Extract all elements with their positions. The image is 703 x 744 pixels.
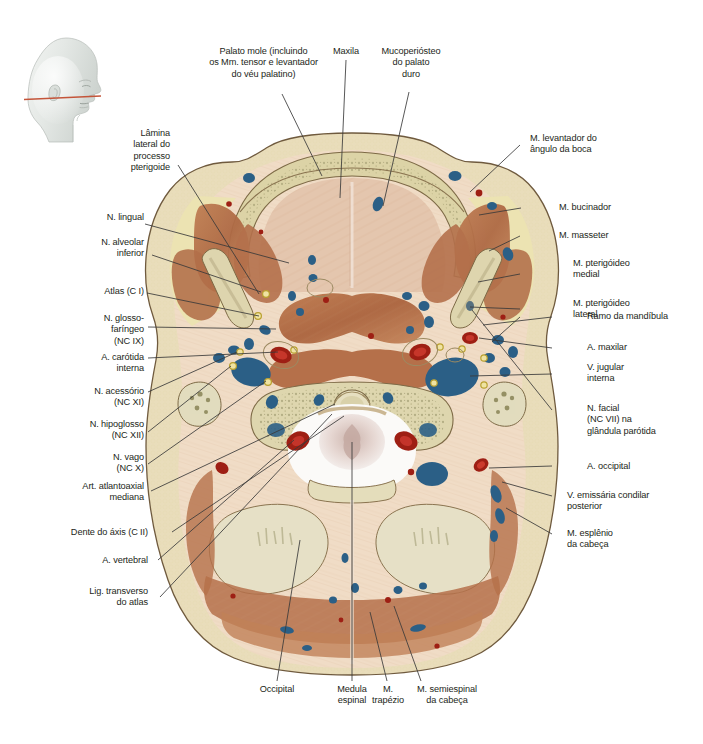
nerve-marker (255, 313, 262, 320)
label-m-trapezio: M. trapézio (366, 684, 410, 707)
label-m-bucinador: M. bucinador (559, 202, 689, 213)
emissary-vein (416, 462, 448, 486)
label-v-emissaria: V. emissária condilar posterior (567, 490, 703, 513)
nerve-marker (481, 355, 487, 361)
label-a-vertebral: A. vertebral (62, 555, 148, 566)
nerve-marker (265, 379, 272, 386)
label-m-pterigoideo-medial: M. pterigóideo medial (573, 258, 693, 281)
label-v-jugular-interna: V. jugular interna (587, 362, 697, 385)
nerve-marker (237, 349, 243, 355)
label-maxila: Maxila (318, 46, 374, 57)
label-n-facial: N. facial (NC VII) na glândula parótida (587, 403, 703, 437)
nerve-marker (481, 382, 487, 388)
nerve-marker (431, 380, 437, 386)
label-art-atlantoaxial: Art. atlantoaxial mediana (38, 481, 144, 504)
facial-nerve-parotid (466, 301, 474, 311)
label-n-hipoglosso: N. hipoglosso (NC XII) (44, 419, 144, 442)
label-occipital: Occipital (244, 684, 310, 695)
label-lamina-lateral: Lâmina lateral do processo pterigoide (60, 128, 170, 174)
label-mucoperiosteo: Mucoperiósteo do palato duro (374, 46, 448, 80)
label-m-esplenio: M. esplênio da cabeça (567, 528, 687, 551)
label-n-acessorio: N. acessório (NC XI) (48, 386, 144, 409)
label-m-masseter: M. masseter (559, 230, 689, 241)
label-atlas-c1: Atlas (C I) (50, 286, 144, 297)
label-a-carotida-interna: A. carótida interna (56, 352, 144, 375)
label-dente-do-axis: Dente do áxis (C II) (42, 527, 148, 538)
label-ramo-da-mandibula: Ramo da mandíbula (587, 311, 703, 322)
label-n-lingual: N. lingual (60, 212, 144, 223)
label-m-levantador-angulo: M. levantador do ângulo da boca (530, 133, 670, 156)
label-a-maxilar: A. maxilar (587, 342, 697, 353)
anatomy-figure: Palato mole (incluindo os Mm. tensor e l… (0, 0, 703, 744)
label-palato-mole: Palato mole (incluindo os Mm. tensor e l… (196, 46, 331, 80)
label-n-glossofaringeo: N. glosso- faríngeo (NC IX) (56, 313, 144, 347)
label-lig-transverso: Lig. transverso do atlas (52, 586, 148, 609)
nerve-marker (230, 363, 237, 370)
label-a-occipital: A. occipital (587, 461, 697, 472)
label-m-semiespinal: M. semiespinal da cabeça (405, 684, 489, 707)
label-n-alveolar-inferior: N. alveolar inferior (60, 237, 144, 260)
nerve-marker (263, 291, 270, 298)
label-n-vago: N. vago (NC X) (58, 452, 144, 475)
